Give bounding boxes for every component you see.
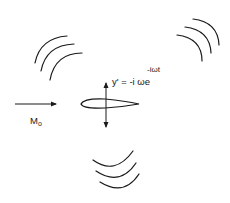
wave-upper-right-icon bbox=[177, 19, 219, 61]
motion-equation-label: y' = -i ωe bbox=[112, 76, 150, 87]
mach-symbol: M bbox=[30, 115, 38, 126]
wave-upper-left-icon bbox=[35, 36, 82, 80]
diagram-canvas: y' = -i ωe -iωt Mo bbox=[0, 0, 230, 203]
airfoil-icon bbox=[81, 99, 139, 108]
diagram-graphics bbox=[0, 0, 230, 203]
wave-lower-icon bbox=[93, 151, 139, 188]
mach-subscript: o bbox=[38, 120, 42, 127]
freestream-mach-label: Mo bbox=[30, 115, 42, 127]
motion-equation-exponent: -iωt bbox=[147, 65, 160, 74]
